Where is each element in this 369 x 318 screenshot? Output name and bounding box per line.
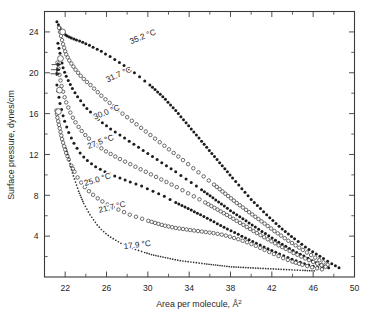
data-point bbox=[313, 270, 315, 272]
data-point bbox=[58, 127, 62, 131]
data-point bbox=[251, 223, 254, 226]
data-point bbox=[160, 223, 164, 227]
data-point bbox=[252, 267, 254, 269]
data-point bbox=[160, 256, 162, 258]
data-point bbox=[96, 197, 100, 201]
data-point bbox=[85, 107, 88, 110]
data-point bbox=[72, 38, 75, 41]
data-point bbox=[162, 256, 164, 258]
data-point bbox=[223, 205, 226, 208]
data-point bbox=[250, 267, 252, 269]
highlight-marker bbox=[56, 109, 62, 115]
data-point bbox=[301, 263, 305, 267]
data-point bbox=[248, 227, 252, 231]
data-point bbox=[79, 181, 83, 185]
data-point bbox=[207, 179, 211, 183]
data-point bbox=[81, 199, 83, 201]
data-point bbox=[187, 207, 190, 210]
data-point bbox=[238, 204, 242, 208]
data-point bbox=[170, 225, 174, 229]
data-point bbox=[96, 224, 98, 226]
data-point bbox=[294, 269, 296, 271]
data-point bbox=[262, 235, 266, 239]
data-point bbox=[198, 198, 202, 202]
data-point bbox=[115, 239, 117, 241]
data-point bbox=[140, 185, 143, 188]
data-point bbox=[151, 155, 154, 158]
data-point bbox=[263, 248, 267, 252]
data-point bbox=[235, 213, 238, 216]
data-point bbox=[148, 84, 151, 87]
data-point bbox=[277, 244, 281, 248]
data-point bbox=[67, 154, 69, 156]
data-point bbox=[297, 269, 299, 271]
data-point bbox=[60, 134, 64, 138]
data-point bbox=[279, 234, 283, 238]
data-point bbox=[71, 116, 75, 120]
data-point bbox=[96, 48, 99, 51]
data-point bbox=[193, 210, 196, 213]
data-point bbox=[84, 42, 87, 45]
data-point bbox=[107, 235, 109, 237]
data-point bbox=[255, 231, 259, 235]
data-point bbox=[100, 94, 104, 98]
data-point bbox=[273, 242, 277, 246]
data-point bbox=[159, 93, 162, 96]
data-point bbox=[177, 202, 180, 205]
data-point bbox=[244, 208, 248, 212]
data-point bbox=[143, 79, 146, 82]
data-point bbox=[62, 46, 66, 50]
data-point bbox=[197, 137, 200, 140]
data-point bbox=[79, 151, 82, 154]
data-point bbox=[195, 134, 198, 137]
data-point bbox=[210, 264, 212, 266]
data-point bbox=[220, 202, 223, 205]
data-point bbox=[261, 230, 264, 233]
chart-figure: 2226303438424650 4812162024 35.2 °C35.2 … bbox=[0, 0, 369, 318]
data-point bbox=[61, 141, 65, 145]
data-point bbox=[118, 241, 120, 243]
data-point bbox=[188, 228, 192, 232]
data-point bbox=[114, 131, 117, 134]
data-point bbox=[73, 91, 76, 94]
data-point bbox=[72, 172, 74, 174]
data-point bbox=[60, 137, 64, 141]
data-point bbox=[87, 189, 91, 193]
data-point bbox=[247, 210, 251, 214]
y-axis-tick-labels: 4812162024 bbox=[29, 27, 39, 241]
data-point bbox=[297, 246, 301, 250]
data-point bbox=[76, 176, 80, 180]
data-point bbox=[292, 251, 296, 255]
data-point bbox=[231, 176, 234, 179]
data-point bbox=[247, 267, 249, 269]
data-point bbox=[101, 121, 104, 124]
series-label-4: 25.0 °C bbox=[83, 171, 112, 188]
data-point bbox=[146, 252, 148, 254]
data-point bbox=[268, 250, 272, 254]
data-point bbox=[118, 157, 122, 161]
data-point bbox=[130, 119, 134, 123]
data-point bbox=[57, 96, 60, 99]
series-label-layer: 35.2 °C35.2 °C31.7 °C31.7 °C30.0 °C30.0 … bbox=[83, 27, 157, 251]
data-point bbox=[79, 99, 82, 102]
data-point bbox=[228, 235, 232, 239]
data-point bbox=[64, 101, 68, 105]
data-point bbox=[242, 267, 244, 269]
data-point bbox=[98, 226, 100, 228]
data-point bbox=[153, 254, 155, 256]
x-tick-label: 26 bbox=[102, 283, 112, 293]
data-point bbox=[132, 143, 135, 146]
data-point bbox=[86, 208, 88, 210]
data-point bbox=[186, 192, 190, 196]
data-point bbox=[316, 262, 320, 266]
data-point bbox=[94, 165, 97, 168]
data-point bbox=[205, 146, 208, 149]
data-point bbox=[255, 267, 257, 269]
data-point bbox=[172, 258, 174, 260]
data-point bbox=[165, 164, 168, 167]
data-point bbox=[134, 215, 138, 219]
data-point bbox=[89, 83, 93, 87]
data-point bbox=[187, 124, 190, 127]
data-point bbox=[257, 228, 260, 231]
data-point bbox=[110, 236, 112, 238]
